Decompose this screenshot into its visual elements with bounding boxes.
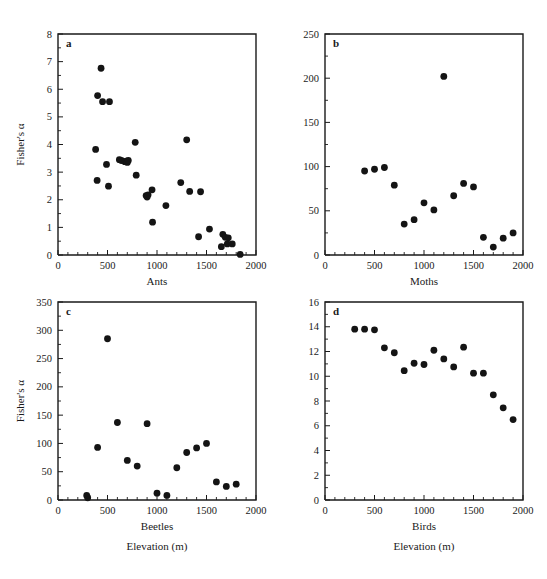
- panel-a-plot: 0123456780500100015002000aAntsFisher's α: [0, 12, 274, 294]
- y-axis-title: Fisher's α: [14, 123, 26, 166]
- data-point: [186, 188, 193, 195]
- plot-frame: [325, 34, 523, 255]
- x-tick-label: 500: [100, 505, 116, 516]
- data-point: [411, 360, 418, 367]
- data-point: [391, 349, 398, 356]
- data-point: [144, 420, 151, 427]
- y-tick-label: 0: [314, 250, 319, 261]
- data-point: [460, 180, 467, 187]
- data-point: [125, 157, 132, 164]
- x-axis-title: Moths: [410, 275, 438, 287]
- data-point: [98, 65, 105, 72]
- data-point: [450, 192, 457, 199]
- y-tick-label: 8: [47, 29, 52, 40]
- y-tick-label: 4: [47, 139, 53, 150]
- y-tick-label: 12: [309, 346, 320, 357]
- panel-letter-a: a: [66, 37, 72, 49]
- data-point: [183, 449, 190, 456]
- x-tick-label: 1500: [463, 260, 484, 271]
- data-point: [229, 241, 236, 248]
- data-point: [132, 139, 139, 146]
- y-tick-label: 10: [309, 371, 320, 382]
- data-point: [114, 419, 121, 426]
- x-tick-label: 1000: [147, 505, 168, 516]
- x-tick-label: 0: [322, 505, 327, 516]
- data-point: [470, 370, 477, 377]
- data-point: [490, 391, 497, 398]
- data-point: [510, 230, 517, 237]
- y-tick-label: 0: [314, 495, 319, 506]
- panel-c-plot: 0501001502002503003500500100015002000cBe…: [0, 288, 274, 579]
- data-point: [177, 179, 184, 186]
- data-point: [203, 440, 210, 447]
- data-point: [237, 251, 244, 258]
- x-tick-label: 1000: [414, 260, 435, 271]
- x-axis-title: Beetles: [141, 520, 173, 532]
- data-point: [431, 347, 438, 354]
- data-point: [510, 416, 517, 423]
- data-point: [421, 361, 428, 368]
- data-point: [94, 444, 101, 451]
- x-tick-label: 2000: [246, 505, 267, 516]
- y-tick-label: 50: [42, 466, 53, 477]
- data-point: [84, 494, 91, 501]
- plot-frame: [58, 34, 256, 255]
- y-tick-label: 200: [303, 73, 319, 84]
- data-point: [225, 234, 232, 241]
- y-tick-label: 200: [36, 381, 52, 392]
- figure-four-panel-scatter: 0123456780500100015002000aAntsFisher's α…: [0, 0, 547, 579]
- x-tick-label: 0: [55, 505, 60, 516]
- data-point: [213, 479, 220, 486]
- data-point: [381, 344, 388, 351]
- data-point: [92, 146, 99, 153]
- y-tick-label: 2: [47, 194, 52, 205]
- data-point: [500, 404, 507, 411]
- data-point: [391, 182, 398, 189]
- data-point: [104, 335, 111, 342]
- data-point: [197, 188, 204, 195]
- y-tick-label: 3: [47, 167, 52, 178]
- y-tick-label: 6: [47, 84, 52, 95]
- panel-c-beetles: 0501001502002503003500500100015002000cBe…: [0, 288, 274, 579]
- y-tick-label: 150: [36, 410, 52, 421]
- data-point: [371, 326, 378, 333]
- x-tick-label: 1500: [196, 260, 217, 271]
- data-point: [351, 326, 358, 333]
- data-point: [470, 184, 477, 191]
- y-tick-label: 350: [36, 297, 52, 308]
- data-point: [149, 186, 156, 193]
- data-point: [163, 202, 170, 209]
- data-point: [195, 233, 202, 240]
- data-point: [218, 243, 225, 250]
- data-point: [105, 183, 112, 190]
- data-point: [223, 483, 230, 490]
- y-tick-label: 250: [36, 353, 52, 364]
- data-point: [361, 168, 368, 175]
- data-point: [106, 98, 113, 105]
- data-point: [500, 235, 507, 242]
- data-point: [133, 172, 140, 179]
- x-tick-label: 1000: [414, 505, 435, 516]
- data-point: [149, 219, 156, 226]
- data-point: [490, 244, 497, 251]
- data-point: [450, 364, 457, 371]
- y-tick-label: 14: [309, 321, 320, 332]
- y-tick-label: 150: [303, 117, 319, 128]
- panel-d-plot: 02468101214160500100015002000dBirdsEleva…: [273, 288, 547, 579]
- y-tick-label: 5: [47, 111, 52, 122]
- x-tick-label: 2000: [246, 260, 267, 271]
- data-point: [440, 356, 447, 363]
- data-point: [421, 199, 428, 206]
- y-tick-label: 1: [47, 222, 52, 233]
- data-point: [371, 166, 378, 173]
- data-point: [193, 445, 200, 452]
- data-point: [480, 234, 487, 241]
- data-point: [431, 207, 438, 214]
- elevation-axis-title: Elevation (m): [394, 540, 455, 553]
- data-point: [361, 326, 368, 333]
- data-point: [124, 457, 131, 464]
- data-point: [183, 136, 190, 143]
- y-tick-label: 16: [309, 297, 320, 308]
- data-point: [173, 464, 180, 471]
- plot-frame: [58, 302, 256, 500]
